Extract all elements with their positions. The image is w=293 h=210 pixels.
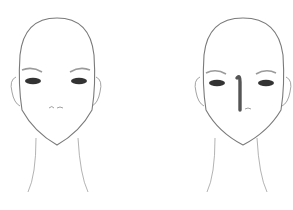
eye-left-r <box>71 78 87 84</box>
eye-right-r <box>258 80 274 86</box>
face-left <box>11 18 101 192</box>
ear-right-l <box>195 77 204 106</box>
ear-left-l <box>11 77 20 106</box>
face-right <box>195 18 291 192</box>
neck-left <box>28 138 88 192</box>
eye-right-l <box>209 80 225 86</box>
neck-right <box>207 138 267 192</box>
eye-left-l <box>25 78 41 84</box>
illustration <box>0 0 293 210</box>
